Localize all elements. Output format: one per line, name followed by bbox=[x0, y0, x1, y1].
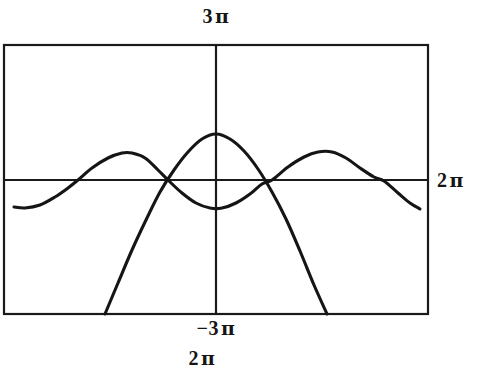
plot-figure: 3π 2π −3π 2π bbox=[0, 0, 479, 378]
plot-canvas bbox=[0, 0, 479, 378]
